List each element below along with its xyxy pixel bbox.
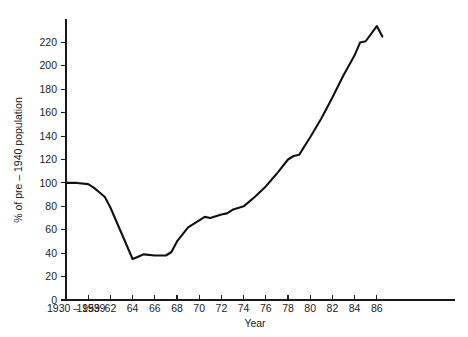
y-tick-label: 180 xyxy=(39,83,57,95)
chart-figure: 020406080100120140160180200220 1930 – 19… xyxy=(0,0,468,337)
data-series-line xyxy=(66,26,382,259)
x-tick-label: 66 xyxy=(149,302,161,314)
x-tick-label: 82 xyxy=(327,302,339,314)
x-axis-ticks xyxy=(66,295,377,300)
y-tick-label: 80 xyxy=(45,200,57,212)
x-tick-label: 86 xyxy=(371,302,383,314)
x-tick-label: 74 xyxy=(238,302,250,314)
x-tick-label: 64 xyxy=(127,302,139,314)
x-tick-label: 84 xyxy=(349,302,361,314)
data-series-group xyxy=(66,26,382,259)
x-axis-tick-labels: 1930 – 193919596264666870727476788082848… xyxy=(47,302,383,314)
line-chart: 020406080100120140160180200220 1930 – 19… xyxy=(0,0,468,337)
x-tick-label: 72 xyxy=(216,302,228,314)
x-tick-label: 78 xyxy=(282,302,294,314)
y-axis-title: % of pre – 1940 population xyxy=(12,97,24,223)
y-tick-label: 160 xyxy=(39,106,57,118)
y-tick-label: 140 xyxy=(39,130,57,142)
y-tick-label: 120 xyxy=(39,153,57,165)
y-tick-label: 100 xyxy=(39,177,57,189)
x-tick-label: 68 xyxy=(171,302,183,314)
y-tick-label: 20 xyxy=(45,270,57,282)
x-tick-label: 76 xyxy=(260,302,272,314)
y-tick-label: 60 xyxy=(45,223,57,235)
y-tick-label: 200 xyxy=(39,59,57,71)
axes-group xyxy=(66,19,455,300)
y-tick-label: 220 xyxy=(39,36,57,48)
x-tick-label: 70 xyxy=(193,302,205,314)
x-tick-label: 62 xyxy=(105,302,117,314)
x-axis-title: Year xyxy=(244,317,266,329)
x-tick-label: 1959 xyxy=(77,302,101,314)
x-tick-label: 80 xyxy=(304,302,316,314)
y-axis-ticks xyxy=(61,42,66,300)
y-axis-tick-labels: 020406080100120140160180200220 xyxy=(39,36,57,306)
y-tick-label: 40 xyxy=(45,247,57,259)
